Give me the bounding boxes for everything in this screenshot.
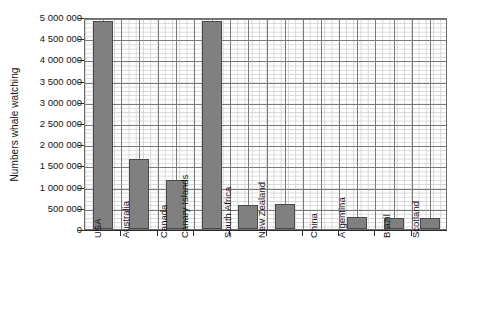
x-tick-label: Argentina (350, 238, 362, 324)
y-tick-mark (78, 230, 84, 231)
x-tick-mark (157, 231, 158, 236)
y-tick-mark (78, 188, 84, 189)
x-tick-label-text: Scotland (410, 201, 421, 238)
y-axis-title-text: Numbers whale watching (10, 67, 21, 181)
y-tick-mark (78, 60, 84, 61)
y-tick-mark (78, 82, 84, 83)
y-axis-title: Numbers whale watching (4, 18, 26, 230)
bar (275, 204, 295, 229)
x-tick-label-text: China (308, 213, 319, 238)
bar (202, 21, 222, 229)
y-tick-mark (78, 145, 84, 146)
y-tick-label: 1 000 000 (26, 183, 82, 193)
y-tick-mark (78, 18, 84, 19)
x-tick-mark (338, 231, 339, 236)
y-tick-label: 2 000 000 (26, 140, 82, 150)
y-tick-label: 5 000 000 (26, 13, 82, 23)
x-tick-label: USA (96, 238, 108, 324)
x-tick-mark (229, 231, 230, 236)
x-tick-label: Canary Islands (205, 238, 217, 324)
x-tick-label: Australia (132, 238, 144, 324)
x-tick-mark (411, 231, 412, 236)
y-tick-label: 4 500 000 (26, 34, 82, 44)
x-tick-mark (266, 231, 267, 236)
x-tick-mark (374, 231, 375, 236)
x-tick-mark (193, 231, 194, 236)
x-tick-label-text: Canada (158, 205, 169, 238)
y-tick-label: 1 500 000 (26, 161, 82, 171)
x-tick-label-text: Brazil (381, 214, 392, 238)
x-tick-label: South Africa (241, 238, 253, 324)
y-tick-label: 4 000 000 (26, 55, 82, 65)
x-tick-label-text: USA (92, 218, 103, 238)
y-tick-label: 3 500 000 (26, 77, 82, 87)
x-tick-label-text: New Zealand (256, 182, 267, 238)
y-tick-mark (78, 209, 84, 210)
x-tick-label: Brazil (387, 238, 399, 324)
x-tick-label-text: South Africa (222, 187, 233, 238)
y-tick-label: 2 500 000 (26, 119, 82, 129)
x-axis-tick-labels: USAAustraliaCanadaCanary IslandsSouth Af… (84, 238, 447, 326)
x-tick-label: New Zealand (278, 238, 290, 324)
x-tick-mark (120, 231, 121, 236)
x-tick-label-text: Australia (120, 201, 131, 238)
y-tick-mark (78, 39, 84, 40)
y-tick-label: 0 (26, 225, 82, 235)
y-tick-mark (78, 103, 84, 104)
x-tick-label: China (314, 238, 326, 324)
x-tick-label: Canada (169, 238, 181, 324)
y-tick-label: 3 000 000 (26, 98, 82, 108)
y-axis-tick-labels: 0500 0001 000 0001 500 0002 000 0002 500… (26, 18, 82, 230)
y-tick-label: 500 000 (26, 204, 82, 214)
bar (93, 21, 113, 229)
x-tick-label-text: Canary Islands (179, 175, 190, 238)
x-tick-mark (302, 231, 303, 236)
bar (347, 217, 367, 229)
y-tick-mark (78, 124, 84, 125)
bar (420, 218, 440, 229)
y-tick-mark (78, 166, 84, 167)
bar-chart: Numbers whale watching 0500 0001 000 000… (0, 0, 480, 328)
x-tick-label: Scotland (423, 238, 435, 324)
bar (129, 159, 149, 229)
